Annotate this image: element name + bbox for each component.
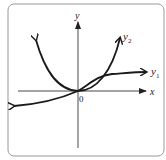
frame (8, 4, 164, 156)
x-axis-label: x (149, 86, 155, 97)
graph-diagram: y x 0 y2 y1 (0, 0, 166, 160)
y-axis-label: y (74, 10, 80, 21)
origin-label: 0 (79, 94, 84, 104)
